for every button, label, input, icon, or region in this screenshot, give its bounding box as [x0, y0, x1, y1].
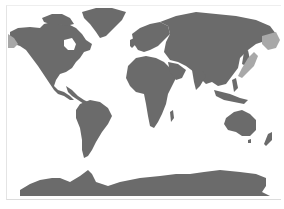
south-america [76, 100, 112, 158]
madagascar [170, 110, 174, 122]
north-america [10, 22, 92, 100]
southeast-asia-islands [214, 90, 248, 104]
europe [132, 22, 170, 52]
greenland [82, 8, 126, 38]
central-america [66, 86, 88, 104]
antarctica [20, 170, 270, 196]
australia [224, 110, 256, 136]
africa [126, 56, 176, 128]
new-zealand [264, 132, 272, 146]
world-map [0, 0, 284, 209]
